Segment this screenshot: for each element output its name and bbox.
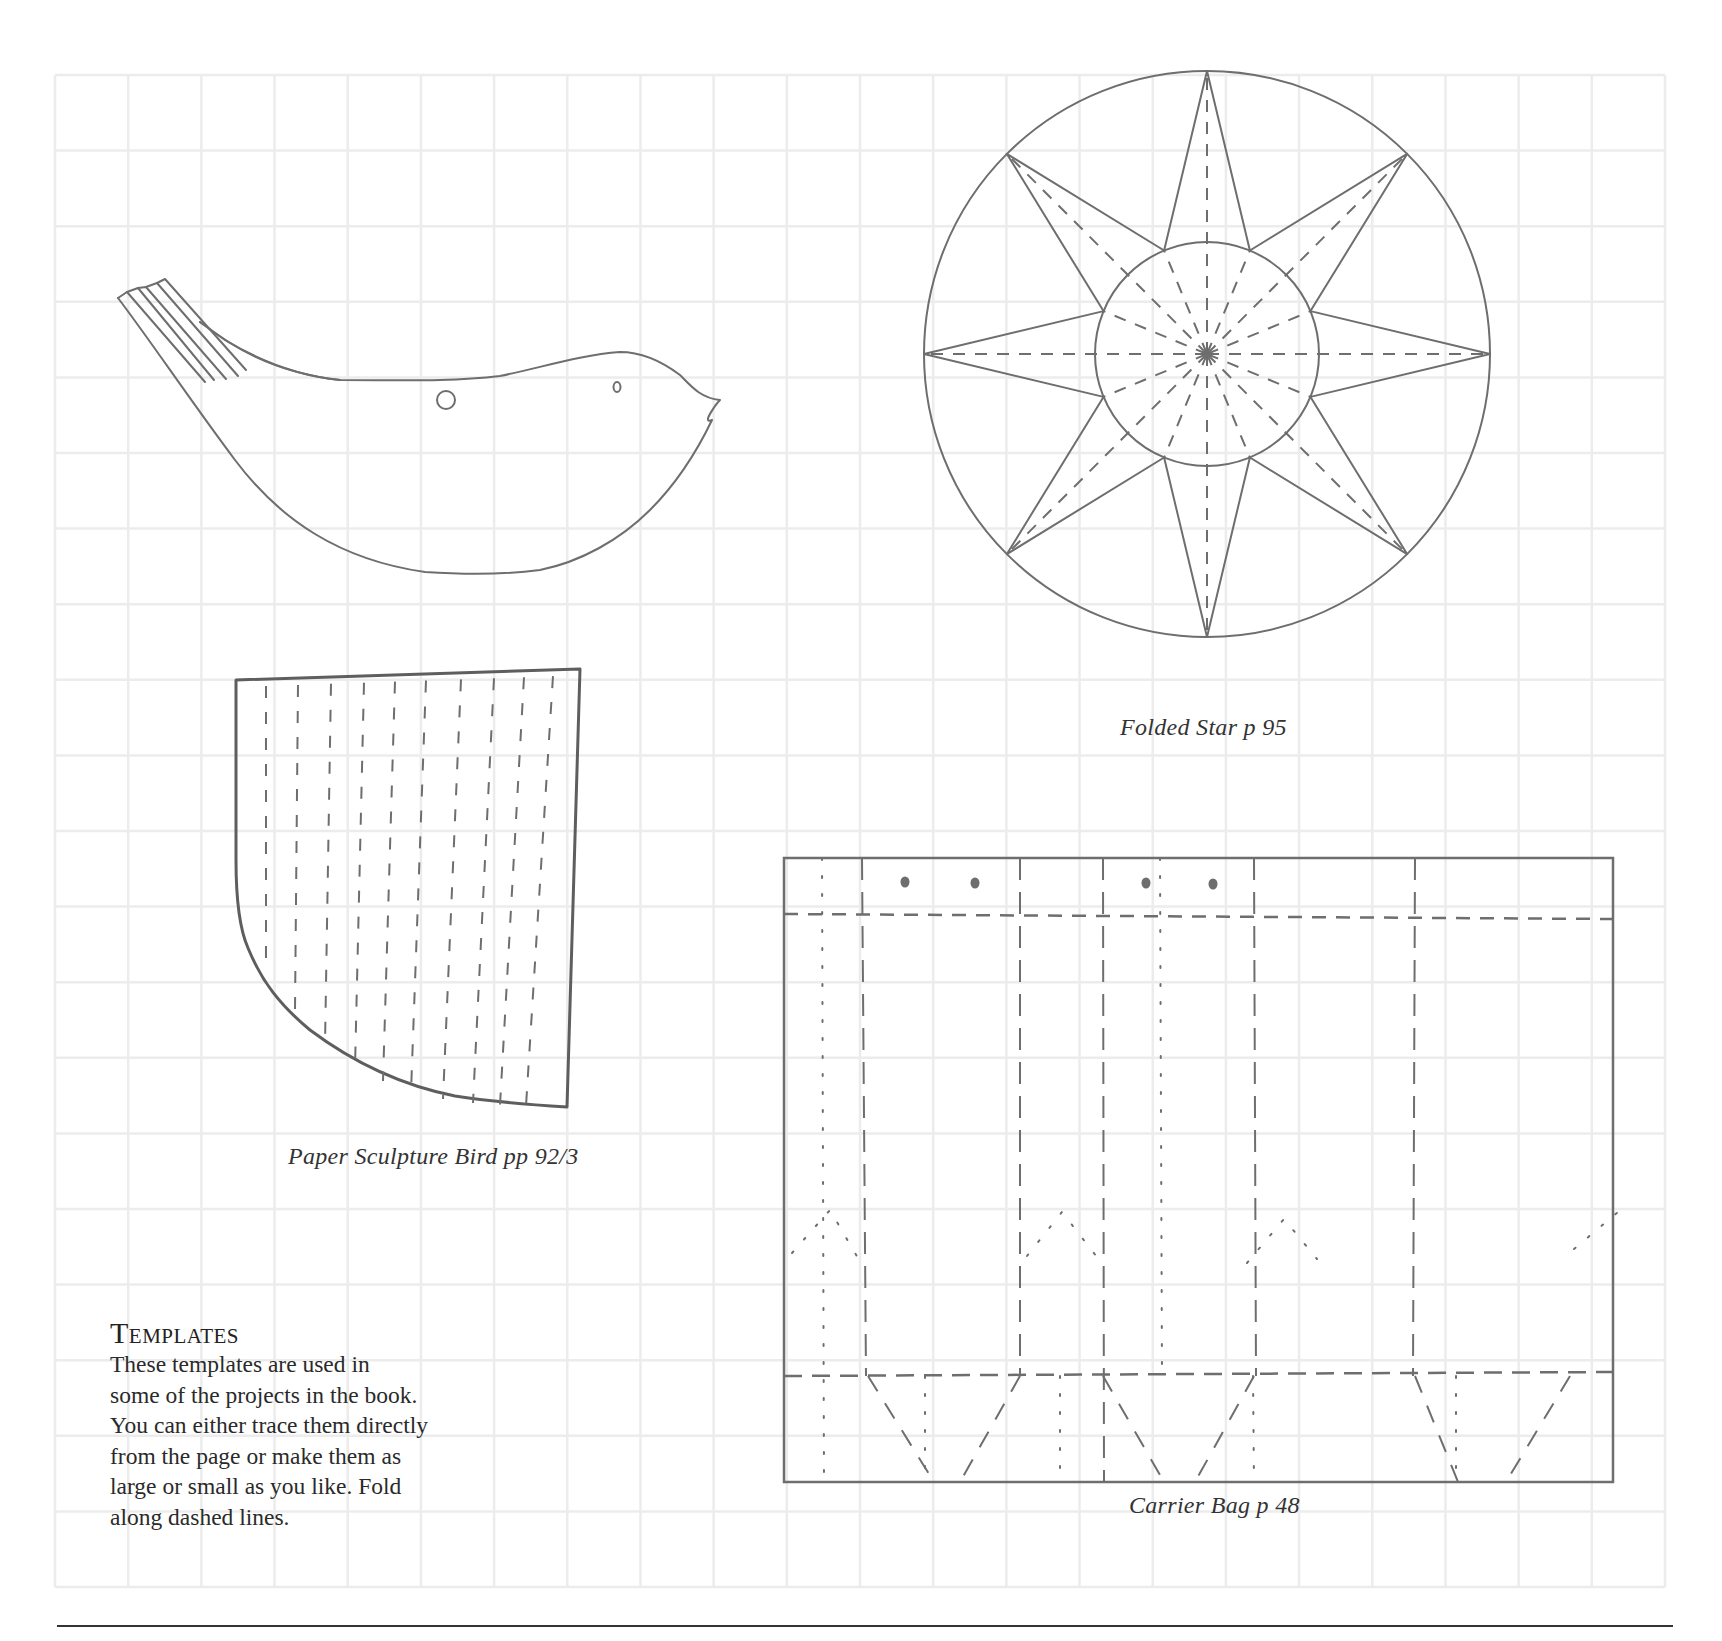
bird-outline	[118, 298, 720, 574]
body-line: from the page or make them as	[110, 1443, 401, 1469]
handle-hole	[1209, 879, 1218, 890]
wing-outline	[236, 669, 580, 1107]
templates-intro: Templates These templates are used in so…	[110, 1317, 510, 1532]
folded-star-template	[924, 71, 1490, 637]
body-line: large or small as you like. Fold	[110, 1473, 401, 1499]
bag-top-fold	[784, 914, 1613, 919]
bag-handle-holes	[901, 877, 1218, 890]
body-line: along dashed lines.	[110, 1504, 289, 1530]
bag-vertical-folds	[862, 858, 1415, 1482]
carrier-bag-template	[784, 858, 1618, 1482]
bag-gusset-dotted	[792, 1210, 1618, 1265]
bird-back-line	[200, 322, 340, 380]
handle-hole	[971, 878, 980, 889]
body-line: You can either trace them directly	[110, 1412, 428, 1438]
hanging-hole	[437, 391, 455, 409]
section-body: These templates are used in some of the …	[110, 1349, 510, 1532]
body-line: These templates are used in	[110, 1351, 370, 1377]
handle-hole	[901, 877, 910, 888]
bag-dotted-folds	[822, 858, 1456, 1482]
bag-gusset-dashed	[868, 1376, 1570, 1482]
bag-bottom-fold	[784, 1372, 1613, 1376]
body-line: some of the projects in the book.	[110, 1382, 417, 1408]
section-heading: Templates	[110, 1317, 510, 1349]
handle-hole	[1142, 878, 1151, 889]
caption-carrier-bag: Carrier Bag p 48	[1129, 1492, 1300, 1519]
caption-paper-sculpture-bird: Paper Sculpture Bird pp 92/3	[288, 1143, 579, 1170]
template-page: Paper Sculpture Bird pp 92/3 Folded Star…	[0, 0, 1722, 1641]
page-bottom-rule	[57, 1625, 1673, 1627]
bag-outline	[784, 858, 1613, 1482]
bird-wing-template	[236, 669, 580, 1107]
bird-eye	[614, 382, 621, 392]
caption-folded-star: Folded Star p 95	[1120, 714, 1287, 741]
